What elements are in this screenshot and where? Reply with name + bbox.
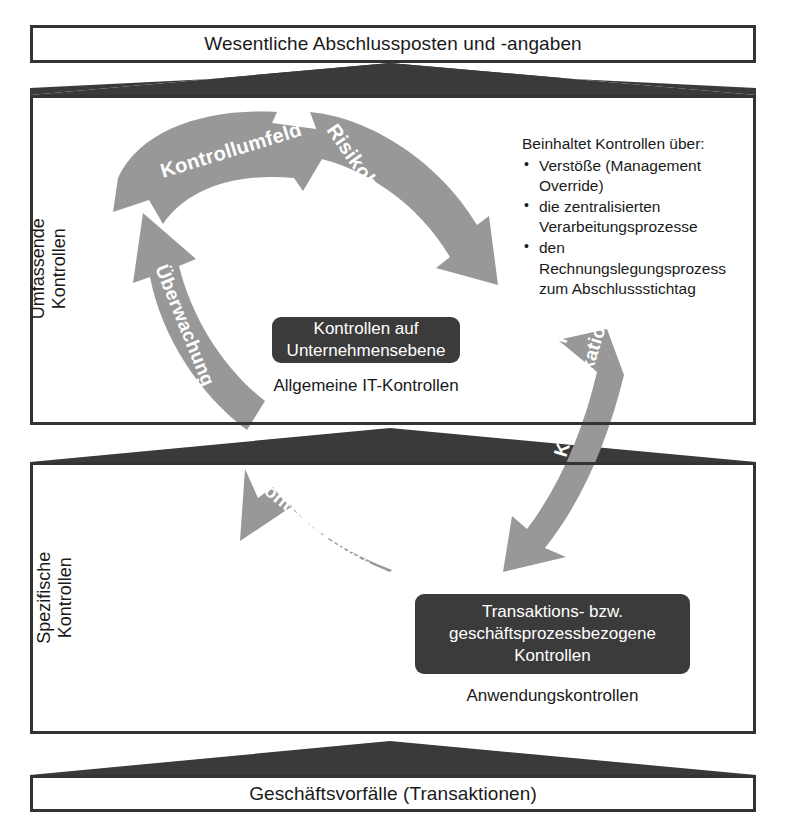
dark-box-kontrollen-auf-unternehmensebene: Kontrollen auf Unternehmensebene <box>272 317 460 363</box>
band-bottom-label: Geschäftsvorfälle (Transaktionen) <box>33 783 753 805</box>
side-label-spezifische-kontrollen: Spezifische Kontrollen <box>34 518 75 678</box>
dark-box-entity-line2: Unternehmensebene <box>287 340 446 362</box>
dark-box-transaktionsbezogene-kontrollen: Transaktions- bzw. geschäftsprozessbezog… <box>415 594 690 674</box>
diagram-canvas: Kontrollumfeld Risikobeurteilungen Überw… <box>0 0 786 836</box>
dark-box-process-line1: Transaktions- bzw. <box>449 601 656 623</box>
side-label-lower-line1: Spezifische <box>34 518 55 678</box>
band-geschaeftsvorfaelle: Geschäftsvorfälle (Transaktionen) <box>30 775 756 812</box>
bullet-item: den Rechnungslegungsprozess zum Abschlus… <box>522 238 744 300</box>
side-label-upper-line2: Kontrollen <box>49 189 70 349</box>
bullet-item: die zentralisierten Verarbeitungsprozess… <box>522 197 744 238</box>
side-label-upper-line1: Umfassende <box>28 189 49 349</box>
caption-anwendungskontrollen: Anwendungskontrollen <box>415 686 690 706</box>
bullet-list-beinhaltet-kontrollen: Beinhaltet Kontrollen über: Verstöße (Ma… <box>522 134 744 300</box>
connector-triangle-middle <box>30 428 756 462</box>
band-top-label: Wesentliche Abschlussposten und -angaben <box>33 33 753 55</box>
dark-box-process-line2: geschäftsprozessbezogene <box>449 623 656 645</box>
connector-triangle-bottom <box>30 741 756 775</box>
bullet-list: Verstöße (Management Override) die zentr… <box>522 156 744 300</box>
side-label-umfassende-kontrollen: Umfassende Kontrollen <box>28 189 69 349</box>
side-label-lower-line2: Kontrollen <box>55 518 76 678</box>
bullet-list-heading: Beinhaltet Kontrollen über: <box>522 134 744 155</box>
caption-allgemeine-it-kontrollen: Allgemeine IT-Kontrollen <box>272 376 460 396</box>
dark-box-process-line3: Kontrollen <box>449 645 656 667</box>
dark-box-entity-line1: Kontrollen auf <box>287 318 446 340</box>
connector-triangle-top-fill <box>30 63 756 95</box>
bullet-item: Verstöße (Management Override) <box>522 156 744 197</box>
band-wesentliche-abschlussposten: Wesentliche Abschlussposten und -angaben <box>30 25 756 63</box>
